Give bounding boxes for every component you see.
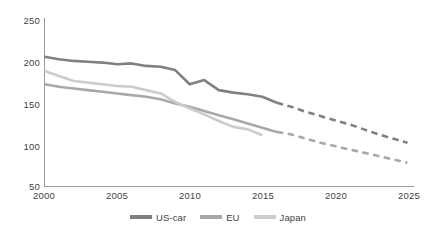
x-tick-2005: 2005 (97, 190, 137, 201)
y-tick-250: 250 (14, 15, 40, 26)
line-chart: 250 200 150 100 50 2000 2005 2010 2015 2… (0, 0, 436, 233)
legend-item-us-car[interactable]: US-car (130, 212, 186, 223)
legend-swatch-us-car (130, 215, 152, 219)
y-tick-100: 100 (14, 141, 40, 152)
legend-item-japan[interactable]: Japan (254, 212, 306, 223)
legend-label-japan: Japan (280, 212, 306, 223)
x-tick-2000: 2000 (24, 190, 64, 201)
legend-swatch-eu (200, 215, 222, 219)
x-tick-2015: 2015 (243, 190, 283, 201)
legend-item-eu[interactable]: EU (200, 212, 239, 223)
legend-label-eu: EU (226, 212, 239, 223)
chart-series-group (45, 57, 408, 163)
y-tick-150: 150 (14, 99, 40, 110)
chart-axes (45, 18, 415, 187)
series-line-us-car (45, 57, 277, 103)
series-line-dashed-us-car (277, 103, 408, 143)
series-line-eu (45, 84, 277, 132)
x-tick-2025: 2025 (389, 190, 429, 201)
legend-label-us-car: US-car (156, 212, 186, 223)
chart-plot-area (0, 0, 436, 233)
x-tick-2020: 2020 (316, 190, 356, 201)
x-tick-2010: 2010 (170, 190, 210, 201)
y-tick-200: 200 (14, 57, 40, 68)
legend-swatch-japan (254, 215, 276, 219)
chart-legend: US-car EU Japan (0, 207, 436, 227)
series-line-japan (45, 71, 263, 135)
